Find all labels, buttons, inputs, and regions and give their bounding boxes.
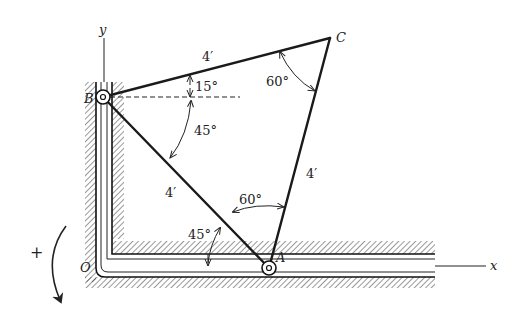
point-label-B: B [83, 91, 94, 106]
angle-60-C-indicator: 60° [266, 52, 315, 91]
rotation-sign-label: + [30, 243, 43, 262]
axes: y x [98, 22, 498, 273]
left-wall-hatch [85, 82, 96, 282]
angle-label-60-A: 60° [239, 192, 262, 207]
diagram-canvas: y x B C A O 4′ 4′ 4′ 15° 60° 45° [0, 0, 526, 318]
member-CA [269, 38, 330, 268]
length-CA: 4′ [306, 166, 317, 181]
length-BA: 4′ [165, 185, 176, 200]
slot-line-inner [107, 82, 435, 259]
point-label-C: C [336, 30, 346, 45]
angle-label-15: 15° [195, 79, 218, 94]
inner-vertical-hatch [112, 82, 124, 239]
angle-label-45-A: 45° [188, 227, 211, 242]
rotation-direction-indicator: + [30, 226, 66, 300]
inner-channel-wall [112, 82, 435, 254]
y-axis-label: y [98, 22, 107, 37]
point-label-A: A [275, 250, 285, 265]
x-axis-label: x [490, 258, 498, 273]
length-BC: 4′ [202, 49, 213, 64]
angle-60-A-indicator: 60° [233, 192, 284, 212]
angle-label-60-C: 60° [266, 74, 289, 89]
bottom-wall-hatch [85, 277, 435, 288]
pin-A [262, 261, 276, 275]
angle-45-B-indicator: 45° [170, 101, 217, 158]
angle-15-indicator: 15° [190, 76, 218, 97]
rotation-arrow-icon [52, 226, 66, 300]
point-label-O: O [80, 260, 91, 275]
angle-label-45-B: 45° [194, 123, 217, 138]
pin-B [96, 90, 110, 104]
